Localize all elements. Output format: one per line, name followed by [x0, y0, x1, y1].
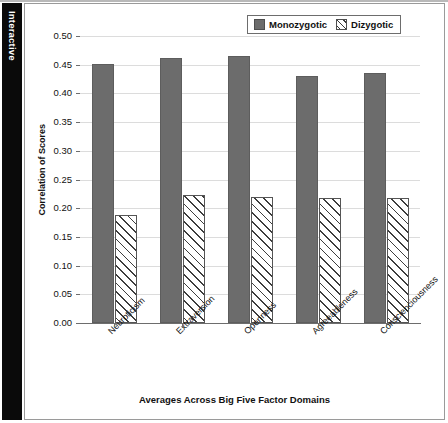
x-axis-tick: [250, 324, 251, 328]
y-axis-tick-label: 0.00: [38, 317, 72, 328]
x-axis-tick: [114, 324, 115, 328]
gridline: [80, 36, 420, 37]
interactive-tab-label: Interactive: [7, 11, 18, 61]
y-axis-tick-label: 0.45: [38, 59, 72, 70]
bar-monozygotic-extraversion: [160, 58, 182, 323]
bar-monozygotic-agreeableness: [296, 76, 318, 323]
bar-monozygotic-neuroticism: [92, 64, 114, 323]
x-axis-title: Averages Across Big Five Factor Domains: [25, 394, 444, 405]
y-axis-tick-label: 0.35: [38, 116, 72, 127]
legend-swatch-dizygotic: [336, 19, 347, 30]
bar-monozygotic-openness: [228, 56, 250, 323]
y-axis-tick-label: 0.25: [38, 174, 72, 185]
top-rule: [0, 0, 448, 2]
y-axis-tick-label: 0.20: [38, 202, 72, 213]
y-axis-tick-label: 0.40: [38, 87, 72, 98]
y-axis-tick-label: 0.15: [38, 231, 72, 242]
y-axis-tick: [76, 323, 80, 324]
legend-label-monozygotic: Monozygotic: [269, 19, 327, 30]
y-axis-tick-label: 0.50: [38, 30, 72, 41]
plot-area: [80, 36, 420, 323]
legend-swatch-monozygotic: [254, 19, 265, 30]
y-axis-tick-label: 0.10: [38, 260, 72, 271]
x-axis-tick: [386, 324, 387, 328]
bar-monozygotic-conscienciousness: [364, 73, 386, 323]
legend-entry-monozygotic: Monozygotic: [254, 19, 327, 30]
chart-legend: Monozygotic Dizygotic: [247, 15, 401, 34]
chart-panel: Monozygotic Dizygotic Correlation of Sco…: [24, 3, 445, 420]
x-axis-tick: [182, 324, 183, 328]
legend-label-dizygotic: Dizygotic: [351, 19, 393, 30]
figure-root: Interactive Monozygotic Dizygotic Correl…: [0, 0, 448, 423]
y-axis-tick-label: 0.05: [38, 288, 72, 299]
legend-entry-dizygotic: Dizygotic: [336, 19, 393, 30]
x-axis-tick: [318, 324, 319, 328]
gridline: [80, 65, 420, 66]
y-axis-tick-label: 0.30: [38, 145, 72, 156]
interactive-side-tab: Interactive: [2, 3, 22, 420]
